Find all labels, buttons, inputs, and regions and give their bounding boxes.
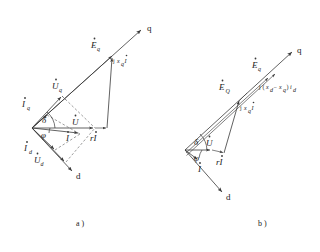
phasor-jxqI-line-b bbox=[224, 101, 239, 153]
phasor-rI-label-a: rI bbox=[90, 131, 98, 143]
q-axis-label-a: q bbox=[147, 23, 152, 33]
expr-j-b: j bbox=[258, 84, 261, 90]
phasor-Iq-base-a: I bbox=[21, 99, 26, 109]
phasor-Uq-dot-a bbox=[55, 79, 57, 81]
caption-a: a ) bbox=[76, 219, 85, 228]
expr-open-paren-b: ( bbox=[263, 84, 265, 91]
q-axis-label-b: q bbox=[297, 45, 302, 55]
phasor-Id-label-a: I d bbox=[23, 141, 33, 155]
phasor-I-label-a: I bbox=[65, 131, 70, 143]
diagram-b: q d δ φ E q E Q bbox=[185, 45, 302, 228]
phasor-Ud-label-a: U d bbox=[34, 153, 45, 167]
phasor-Eq-base-a: E bbox=[90, 40, 97, 50]
phasor-U-label-b: U bbox=[206, 136, 213, 148]
caption-b: b ) bbox=[258, 219, 267, 228]
phasor-Eq-sub-b: q bbox=[258, 66, 261, 72]
phi-arc-b bbox=[199, 150, 202, 158]
phasor-I-base-a: I bbox=[65, 133, 70, 143]
phasor-jxqI-I-b: I bbox=[251, 105, 255, 111]
expr-xd-base-b: x bbox=[265, 84, 269, 90]
phasor-diagram-figure: q d δ φ bbox=[0, 0, 320, 252]
phi-label-b: φ bbox=[194, 153, 199, 163]
expr-xq-base-b: x bbox=[278, 84, 282, 90]
phasor-Uq-label-a: U q bbox=[52, 79, 62, 93]
phasor-Id-sub-a: d bbox=[29, 149, 33, 155]
phasor-U-dot-b bbox=[209, 136, 211, 138]
phasor-jxqI-dot-b bbox=[253, 102, 255, 104]
phasor-Id-base-a: I bbox=[23, 143, 28, 153]
phi-label-a: φ bbox=[41, 130, 46, 140]
d-axis-label-b: d bbox=[226, 192, 231, 202]
phasor-Uq-line-a bbox=[32, 97, 61, 128]
phasor-Uq-sub-a: q bbox=[59, 87, 62, 93]
phasor-Iq-label-a: I q bbox=[21, 97, 30, 111]
expr-i-base-b: i bbox=[290, 84, 292, 90]
phasor-rI-base-b: rI bbox=[216, 157, 224, 167]
phasor-I-dot-a bbox=[67, 131, 69, 133]
phasor-Iq-sub-a: q bbox=[27, 105, 30, 111]
phasor-U-dot-a bbox=[75, 115, 77, 117]
phasor-jxqI-label-a: j x q I bbox=[112, 55, 128, 67]
phasor-EQ-dot-b bbox=[222, 80, 224, 82]
phasor-rI-label-b: rI bbox=[216, 155, 224, 167]
phasor-jxqI-I-a: I bbox=[124, 58, 128, 64]
phasor-U-base-b: U bbox=[206, 138, 213, 148]
phasor-Eq-label-a: E q bbox=[90, 38, 100, 52]
phasor-rI-base-a: rI bbox=[90, 133, 98, 143]
phasor-jxqI-dot-a bbox=[126, 55, 128, 57]
triangle-close-line-b bbox=[239, 93, 247, 101]
phasor-jxqI-j-a: j bbox=[112, 58, 115, 64]
expr-close-paren-b: ) bbox=[287, 84, 289, 91]
dash-Uq-to-U-a bbox=[62, 96, 95, 128]
phasor-Eq-sub-a: q bbox=[97, 46, 100, 52]
phasor-Eq-dot-a bbox=[94, 38, 96, 40]
phasor-rI-dot-b bbox=[221, 155, 223, 157]
phasor-U-base-a: U bbox=[72, 117, 79, 127]
phasor-EQ-base-b: E bbox=[218, 82, 225, 92]
phasor-Eq-label-b: E q bbox=[251, 58, 261, 72]
phasor-EQ-label-b: E Q bbox=[218, 80, 231, 94]
phasor-Ud-dot-a bbox=[37, 153, 39, 155]
phasor-Eq-dot-b bbox=[255, 58, 257, 60]
phasor-Iq-dot-a bbox=[24, 97, 26, 99]
delta-arc-a bbox=[47, 112, 55, 128]
phasor-I-dot-b bbox=[199, 162, 201, 164]
phasor-rI-line-b bbox=[212, 150, 223, 153]
phasor-jxqI-label-b: j x q I bbox=[239, 102, 255, 114]
phasor-Uq-base-a: U bbox=[52, 81, 59, 91]
delta-label-a: δ bbox=[42, 115, 47, 125]
phasor-jxqI-x-a: x bbox=[116, 58, 120, 64]
reactance-difference-label-b: j ( x d − x q ) i d bbox=[258, 84, 297, 93]
phasor-jxqI-line-a bbox=[107, 58, 112, 128]
phasor-Eq-base-b: E bbox=[251, 60, 258, 70]
phasor-Id-dot-a bbox=[26, 141, 28, 143]
diagram-a: q d δ φ bbox=[21, 23, 152, 228]
d-axis-label-a: d bbox=[76, 171, 81, 181]
phasor-rI-dot-a bbox=[95, 131, 97, 133]
phasor-Ud-sub-a: d bbox=[41, 161, 45, 167]
phasor-jxqI-x-b: x bbox=[243, 105, 247, 111]
phasor-U-label-a: U bbox=[72, 115, 79, 127]
expr-i-sub-b: d bbox=[293, 87, 297, 93]
phasor-EQ-sub-b: Q bbox=[226, 88, 231, 94]
expr-minus-b: − bbox=[274, 84, 278, 90]
phasor-jxqI-j-b: j bbox=[239, 105, 242, 111]
phi-arc-a bbox=[49, 128, 50, 133]
